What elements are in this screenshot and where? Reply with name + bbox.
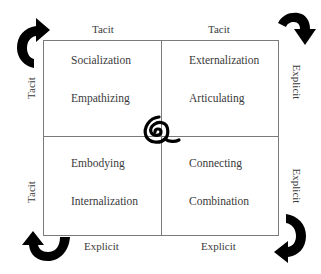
curved-arrow-up-right-icon (12, 14, 52, 70)
right-top-edge-label: Explicit (291, 65, 303, 100)
quadrant-bottom-left-activity: Internalization (71, 195, 138, 207)
quadrant-top-right-process: Externalization (189, 54, 259, 66)
quadrant-top-left-activity: Empathizing (71, 92, 130, 104)
curved-arrow-up-icon (20, 229, 72, 265)
right-bottom-edge-label: Explicit (291, 169, 303, 204)
quadrant-bottom-right-process: Connecting (189, 157, 242, 169)
bottom-right-edge-label: Explicit (201, 240, 236, 252)
left-top-edge-label: Tacit (25, 77, 37, 99)
spiral-icon (141, 114, 183, 150)
curved-arrow-down-icon (276, 11, 318, 47)
quadrant-bottom-right-activity: Combination (189, 195, 249, 207)
quadrant-top-right-activity: Articulating (189, 92, 245, 104)
top-right-edge-label: Tacit (208, 23, 230, 35)
curved-arrow-down-left-icon (272, 212, 310, 264)
top-left-edge-label: Tacit (92, 23, 114, 35)
quadrant-bottom-left-process: Embodying (71, 157, 125, 169)
bottom-left-edge-label: Explicit (84, 240, 119, 252)
quadrant-top-left-process: Socialization (71, 54, 131, 66)
left-bottom-edge-label: Tacit (25, 181, 37, 203)
